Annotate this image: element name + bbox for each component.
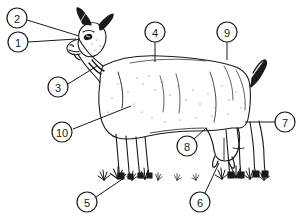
- goat-rib-shading-1: [160, 76, 164, 112]
- callout-3-label: 3: [55, 82, 61, 94]
- goat-flank-line: [210, 72, 216, 122]
- goat-back-shading: [130, 59, 206, 63]
- callout-6-label: 6: [197, 197, 203, 209]
- callout-5-leader: [96, 178, 124, 197]
- callout-6[interactable]: 6: [190, 192, 210, 212]
- goat-brow-line: [83, 31, 94, 33]
- callout-8-leader: [194, 128, 206, 139]
- grass-tuft: [98, 170, 110, 180]
- callout-6-leader: [205, 163, 219, 193]
- grass-tuft: [156, 173, 162, 180]
- callout-7-label: 7: [282, 117, 288, 129]
- callout-8[interactable]: 8: [177, 136, 197, 156]
- callout-3-leader: [68, 66, 97, 84]
- callout-1-label: 1: [15, 37, 21, 49]
- goat-hindleg-far-back: [259, 121, 266, 177]
- goat-udder: [206, 128, 240, 161]
- callout-10[interactable]: 10: [52, 122, 72, 142]
- callout-leader-lines: [27, 20, 275, 197]
- callout-3[interactable]: 3: [48, 77, 68, 97]
- goat-hindleg-far-front: [250, 122, 256, 177]
- goat-illustration: 12345678910: [0, 0, 302, 224]
- callout-8-label: 8: [184, 141, 190, 153]
- callout-5[interactable]: 5: [77, 192, 97, 212]
- goat-hip-shading: [224, 66, 233, 100]
- grass-tuft: [215, 168, 228, 179]
- goat-foreleg-rear-back: [145, 137, 151, 178]
- goat-torso-outline: [99, 56, 250, 139]
- goat-rib-shading-2: [176, 74, 180, 113]
- goat-nostril: [70, 45, 74, 47]
- callout-1-leader: [28, 39, 76, 42]
- goat-anatomy-figure: 12345678910: [0, 0, 302, 224]
- callout-7[interactable]: 7: [275, 112, 295, 132]
- goat-throat-line: [78, 54, 100, 82]
- callout-1[interactable]: 1: [8, 32, 28, 52]
- callout-2-label: 2: [14, 13, 20, 25]
- callout-10-leader: [73, 106, 131, 129]
- grass-tuft: [174, 174, 181, 180]
- callout-2[interactable]: 2: [7, 8, 27, 28]
- goat-rump-shading: [236, 70, 245, 110]
- goat-eye: [83, 33, 93, 41]
- callout-9[interactable]: 9: [217, 22, 237, 42]
- callout-10-label: 10: [56, 127, 68, 139]
- goat-hindleg-near-front: [226, 130, 231, 178]
- callout-9-label: 9: [224, 27, 230, 39]
- callout-5-label: 5: [84, 197, 90, 209]
- callout-4[interactable]: 4: [145, 22, 165, 42]
- goat-texture-stipple: [92, 40, 242, 123]
- goat-body-group: [67, 8, 268, 179]
- grass-tuft: [192, 174, 199, 180]
- callout-2-leader: [27, 20, 79, 36]
- callout-circles-group: 12345678910: [7, 8, 295, 212]
- callout-4-label: 4: [152, 27, 158, 39]
- goat-ear-right: [99, 14, 113, 30]
- goat-shoulder-line: [118, 72, 123, 108]
- goat-mouth-line: [69, 50, 79, 52]
